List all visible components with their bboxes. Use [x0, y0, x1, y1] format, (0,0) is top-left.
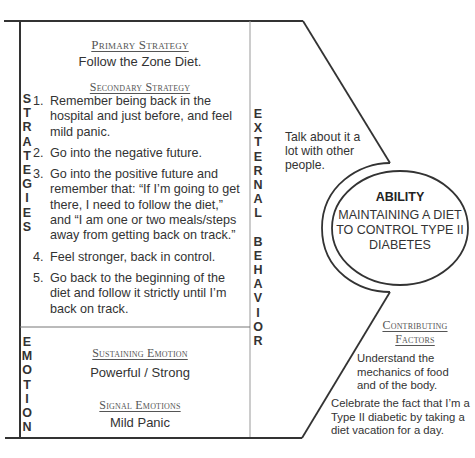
step-text: Go into the negative future. [50, 146, 202, 160]
side-letter: O [253, 320, 263, 334]
side-letter: V [254, 291, 262, 305]
primary-strategy-text: Follow the Zone Diet. [30, 54, 250, 69]
step-text: Go back to the beginning of the diet and… [50, 271, 226, 316]
secondary-strategy-steps: 1. Remember being back in the hospital a… [30, 94, 245, 323]
sustaining-emotion-text: Powerful / Strong [30, 365, 250, 380]
primary-strategy-heading: Primary Strategy [30, 37, 250, 53]
step-number: 1. [33, 94, 44, 109]
side-letter: A [253, 192, 262, 206]
step-number: 5. [33, 271, 44, 286]
strategy-step: 2. Go into the negative future. [30, 146, 245, 161]
strategy-step: 4. Feel stronger, back in control. [30, 250, 245, 265]
contributing-factor-item: Celebrate the fact that I’m a Type II di… [331, 397, 471, 438]
strategy-step: 1. Remember being back in the hospital a… [30, 94, 245, 140]
side-letter: E [254, 249, 262, 263]
side-letter: R [253, 334, 262, 348]
side-letter: T [254, 135, 262, 149]
strategy-step: 5. Go back to the beginning of the diet … [30, 271, 245, 317]
strategy-step: 3. Go into the positive future and remem… [30, 167, 245, 243]
side-letter: B [253, 235, 262, 249]
ability-text: MAINTAINING A DIET TO CONTROL TYPE II DI… [336, 208, 464, 253]
external-behavior-text: Talk about it a lot with other people. [285, 130, 373, 172]
step-number: 4. [33, 250, 44, 265]
side-letter: I [25, 191, 28, 205]
side-letter: E [254, 107, 262, 121]
contributing-factors-heading-line2: Factors [365, 332, 465, 346]
side-letter: H [253, 263, 262, 277]
side-letter: R [253, 164, 262, 178]
side-letter: N [253, 178, 262, 192]
secondary-strategy-heading: Secondary Strategy [30, 80, 250, 95]
side-letter: E [254, 150, 262, 164]
contributing-factors-heading-line1: Contributing [365, 318, 465, 332]
step-text: Feel stronger, back in control. [50, 250, 215, 264]
side-letter: A [253, 277, 262, 291]
side-letter: L [254, 206, 262, 220]
external-behavior-side-label: E X T E R N A L B E H A V I O R [251, 107, 265, 348]
step-text: Go into the positive future and remember… [50, 167, 240, 242]
sustaining-emotion-heading: Sustaining Emotion [30, 346, 250, 361]
contributing-factor-item: Understand the mechanics of food and of … [357, 352, 452, 393]
contributing-factors-heading: Contributing Factors [365, 318, 465, 346]
side-letter: I [256, 306, 259, 320]
step-text: Remember being back in the hospital and … [50, 94, 232, 139]
step-number: 3. [33, 167, 44, 182]
side-letter: X [254, 121, 262, 135]
ability-title: ABILITY [332, 190, 468, 204]
side-letter: I [25, 392, 28, 406]
signal-emotions-heading: Signal Emotions [30, 398, 250, 413]
step-number: 2. [33, 146, 44, 161]
signal-emotions-text: Mild Panic [30, 415, 250, 430]
